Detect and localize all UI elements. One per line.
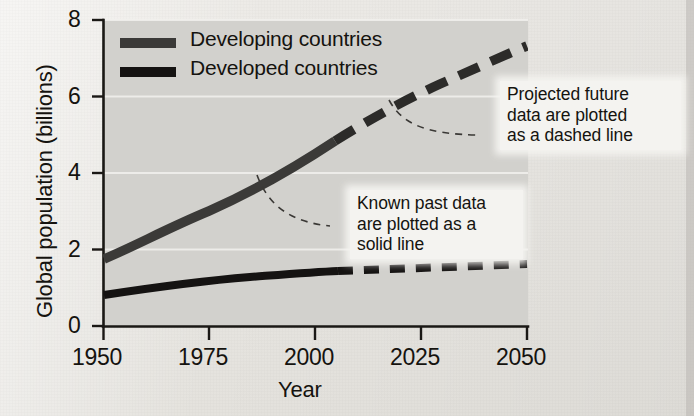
- y-tick-0: 0: [68, 312, 81, 339]
- y-tick-6: 6: [68, 83, 81, 110]
- y-axis-title: Global population (billions): [32, 64, 58, 318]
- y-tick-2: 2: [68, 236, 81, 263]
- annotation-projected-future: Projected future data are plotted as a d…: [500, 81, 681, 150]
- legend-swatch-developing: [120, 38, 176, 48]
- x-tick-1975: 1975: [178, 344, 228, 371]
- legend-item-developed[interactable]: Developed countries: [190, 56, 378, 80]
- x-tick-2025: 2025: [390, 344, 440, 371]
- x-axis-title: Year: [278, 377, 322, 403]
- annotation-known-line-2: are plotted as a: [357, 214, 517, 235]
- annotation-known-line-1: Known past data: [357, 193, 517, 214]
- x-axis-ticks: [104, 326, 528, 340]
- legend-swatch-developed: [120, 67, 176, 77]
- x-tick-2000: 2000: [284, 344, 334, 371]
- annotation-projected-line-1: Projected future: [507, 84, 675, 105]
- annotation-projected-line-2: data are plotted: [507, 105, 675, 126]
- legend-item-developing[interactable]: Developing countries: [190, 27, 382, 51]
- x-tick-1950: 1950: [72, 344, 122, 371]
- annotation-known-line-3: solid line: [357, 234, 517, 255]
- page-edge-shadow: [686, 0, 694, 416]
- annotation-projected-line-3: as a dashed line: [507, 125, 675, 146]
- population-projection-chart: Developing countries Developed countries…: [0, 0, 694, 416]
- y-tick-4: 4: [68, 159, 81, 186]
- y-tick-8: 8: [68, 6, 81, 33]
- x-tick-2050: 2050: [496, 344, 546, 371]
- annotation-known-past: Known past data are plotted as a solid l…: [350, 190, 523, 259]
